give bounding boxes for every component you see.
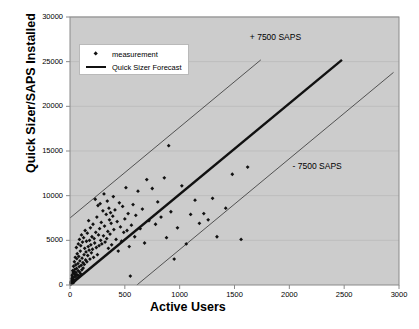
x-tick-marks xyxy=(70,285,399,289)
legend-label-measurement: measurement xyxy=(112,50,158,59)
y-tick-label: 20000 xyxy=(29,101,63,110)
y-tick-label: 30000 xyxy=(29,12,63,21)
y-tick-label: 0 xyxy=(29,280,63,289)
legend-entry-forecast: Quick Sizer Forecast xyxy=(80,60,190,74)
x-axis-title: Active Users xyxy=(150,300,226,314)
diamond-marker-icon xyxy=(80,47,112,61)
x-tick-label: 500 xyxy=(108,290,142,299)
x-tick-label: 1000 xyxy=(163,290,197,299)
y-tick-label: 15000 xyxy=(29,146,63,155)
chart-legend: measurement Quick Sizer Forecast xyxy=(79,44,189,75)
legend-entry-measurement: measurement xyxy=(80,47,190,61)
x-tick-label: 3000 xyxy=(382,290,416,299)
y-tick-label: 5000 xyxy=(29,235,63,244)
x-tick-label: 2000 xyxy=(272,290,306,299)
y-tick-label: 25000 xyxy=(29,57,63,66)
x-tick-label: 2500 xyxy=(327,290,361,299)
annotation-plus-7500-saps: + 7500 SAPS xyxy=(250,32,301,42)
scatter-chart: Quick Sizer/SAPS Installed Active Users … xyxy=(0,0,419,329)
x-tick-label: 0 xyxy=(53,290,87,299)
x-tick-label: 1500 xyxy=(218,290,252,299)
y-tick-marks xyxy=(66,17,70,285)
y-tick-label: 10000 xyxy=(29,191,63,200)
annotation-minus-7500-saps: - 7500 SAPS xyxy=(293,161,342,171)
line-marker-icon xyxy=(80,60,112,74)
legend-label-forecast: Quick Sizer Forecast xyxy=(112,63,182,72)
